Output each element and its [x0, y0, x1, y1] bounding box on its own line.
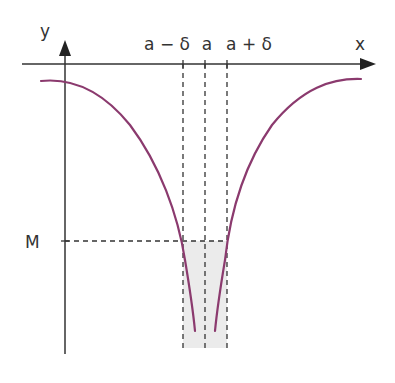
label-a-minus-delta: a − δ	[144, 34, 190, 54]
curve-right-branch	[215, 79, 361, 331]
y-axis-label: y	[40, 21, 50, 41]
label-m: M	[25, 232, 40, 252]
x-axis-arrow-icon	[360, 58, 376, 70]
curve-left-branch	[41, 81, 195, 331]
x-axis-label: x	[355, 34, 365, 54]
y-axis-arrow-icon	[59, 40, 71, 56]
diagram-canvas: y x a − δ a a + δ M	[0, 0, 395, 383]
label-a-plus-delta: a + δ	[226, 34, 272, 54]
label-a: a	[202, 34, 212, 54]
